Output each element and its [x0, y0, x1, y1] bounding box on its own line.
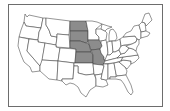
state-new-mexico	[57, 61, 74, 81]
state-colorado	[58, 48, 76, 63]
state-wyoming	[56, 34, 70, 48]
us-map	[0, 0, 170, 111]
state-florida	[110, 75, 133, 95]
state-north-dakota	[70, 21, 88, 31]
state-massachusetts-ct-ri	[141, 31, 150, 38]
state-kansas	[75, 52, 93, 63]
state-arizona	[40, 60, 58, 80]
